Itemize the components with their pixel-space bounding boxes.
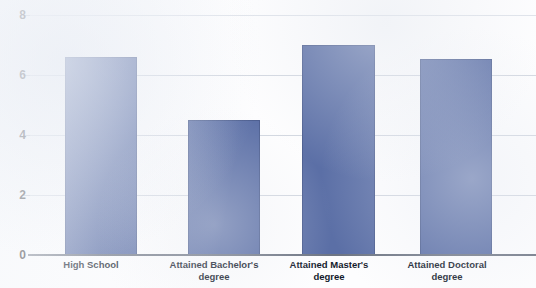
bar-attained-masters[interactable] <box>302 45 375 255</box>
plot-area <box>30 15 536 255</box>
gridline-8 <box>30 15 536 16</box>
x-tick-label-line2: degree <box>268 271 390 283</box>
x-tick-label-line1: Attained Doctoral <box>386 259 508 271</box>
x-tick-label-high-school: High School <box>31 259 151 271</box>
y-tick-label-8: 8 <box>2 8 26 22</box>
x-tick-label-line1: Attained Bachelor's <box>154 259 274 271</box>
x-tick-label-attained-doctoral: Attained Doctoral degree <box>386 259 508 282</box>
bar-attained-doctoral[interactable] <box>420 59 492 256</box>
x-tick-label-line2: degree <box>154 271 274 283</box>
x-tick-label-line1: Attained Master's <box>268 259 390 271</box>
x-axis-line <box>28 254 536 256</box>
y-tick-label-6: 6 <box>2 68 26 82</box>
y-tick-label-4: 4 <box>2 128 26 142</box>
x-tick-label-line1: High School <box>31 259 151 271</box>
x-tick-label-attained-masters: Attained Master's degree <box>268 259 390 282</box>
x-axis: High School Attained Bachelor's degree A… <box>0 259 536 288</box>
x-tick-label-attained-bachelors: Attained Bachelor's degree <box>154 259 274 282</box>
x-tick-label-line2: degree <box>386 271 508 283</box>
y-tick-label-2: 2 <box>2 188 26 202</box>
bar-high-school[interactable] <box>65 57 137 255</box>
bar-chart: 8 6 4 2 0 High School Attained Bachelor'… <box>0 0 536 288</box>
bar-attained-bachelors[interactable] <box>188 120 260 255</box>
y-axis: 8 6 4 2 0 <box>0 0 26 288</box>
